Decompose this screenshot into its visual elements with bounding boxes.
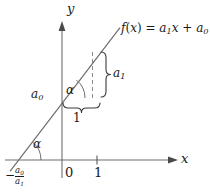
root-fraction: a0 a1: [15, 166, 24, 187]
root-numerator-subscript: 0: [20, 170, 24, 176]
function-equation-label: f(x) = a1x + a0: [121, 22, 208, 35]
origin-label: 0: [65, 166, 73, 179]
angle-label-at-y-intercept: α: [66, 84, 74, 96]
run-brace: [63, 103, 100, 113]
function-arg: x: [130, 21, 137, 35]
slope-label: a1: [113, 67, 125, 80]
function-equals: =: [142, 21, 160, 35]
x-axis: [5, 156, 178, 165]
y-axis-arrowhead: [59, 21, 66, 31]
run-label: 1: [73, 112, 81, 124]
y-intercept-subscript: 0: [38, 92, 43, 102]
function-plus: +: [178, 21, 196, 35]
root-minus-sign: −: [5, 168, 15, 182]
root-denominator: a1: [15, 176, 24, 187]
angle-label-at-x-intercept: α: [33, 138, 41, 150]
x-tick-label-one: 1: [94, 166, 102, 179]
y-axis-label: y: [67, 2, 74, 15]
x-axis-label: x: [181, 152, 188, 165]
root-numerator: a0: [15, 166, 24, 176]
rise-brace: [101, 52, 111, 97]
root-denominator-subscript: 1: [20, 180, 24, 186]
slope-subscript: 1: [120, 71, 125, 81]
x-axis-arrowhead: [168, 157, 178, 164]
linear-function-figure: y x 0 1 f(x) = a1x + a0 a0 a1 1 α α − a0…: [0, 0, 210, 192]
y-intercept-label: a0: [31, 88, 43, 101]
root-label: − a0 a1: [5, 166, 24, 187]
function-line: [10, 28, 120, 172]
function-a0-subscript: 0: [203, 26, 208, 36]
